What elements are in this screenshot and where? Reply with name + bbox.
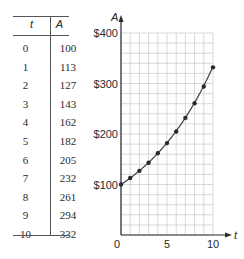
y-tick-label: $400 xyxy=(94,27,118,39)
y-tick-label: $300 xyxy=(94,78,118,90)
data-point xyxy=(211,65,215,69)
data-point xyxy=(119,182,123,186)
y-tick-label: $200 xyxy=(94,128,118,140)
data-point xyxy=(202,84,206,88)
data-point xyxy=(192,101,196,105)
data-point xyxy=(156,151,160,155)
x-tick-label: 0 xyxy=(114,238,120,250)
x-tick-label: 5 xyxy=(164,238,170,250)
data-point xyxy=(183,116,187,120)
data-point xyxy=(165,141,169,145)
data-point xyxy=(146,161,150,165)
y-tick-label: $100 xyxy=(94,179,118,191)
x-axis-arrow-icon xyxy=(225,233,232,238)
chart: At$100$200$300$4000510 xyxy=(0,0,244,259)
y-axis-label: A xyxy=(110,11,118,23)
x-axis-label: t xyxy=(234,229,238,241)
data-point xyxy=(128,176,132,180)
data-point xyxy=(137,169,141,173)
x-tick-label: 10 xyxy=(207,238,219,250)
data-point xyxy=(174,129,178,133)
y-axis-arrow-icon xyxy=(119,15,124,22)
